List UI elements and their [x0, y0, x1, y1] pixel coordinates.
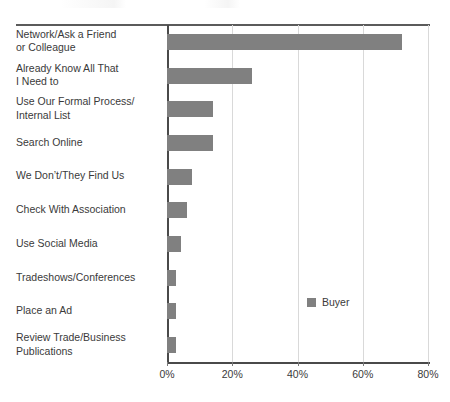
category-label-line: Already Know All That	[16, 62, 162, 76]
gridline-80%	[428, 25, 429, 362]
legend: Buyer	[307, 296, 349, 308]
category-label: Place an Ad	[16, 304, 162, 318]
gridline-60%	[363, 25, 364, 362]
x-tick-mark	[428, 362, 429, 366]
x-tick-mark	[363, 362, 364, 366]
category-label-line: Publications	[16, 345, 162, 359]
category-label-line: Use Our Formal Process/	[16, 95, 162, 109]
legend-swatch-buyer	[307, 298, 316, 307]
category-label-line: Search Online	[16, 136, 162, 150]
bar	[167, 135, 213, 151]
category-label: Already Know All ThatI Need to	[16, 62, 162, 89]
x-axis-line	[167, 362, 430, 364]
category-label: Search Online	[16, 136, 162, 150]
x-tick-label: 0%	[147, 368, 187, 380]
bar	[167, 202, 187, 218]
category-label: We Don’t/They Find Us	[16, 169, 162, 183]
bar	[167, 337, 176, 353]
x-tick-label: 60%	[343, 368, 383, 380]
category-label-line: Tradeshows/Conferences	[16, 271, 162, 285]
bar	[167, 34, 402, 50]
x-tick-label: 80%	[408, 368, 448, 380]
x-tick-mark	[298, 362, 299, 366]
category-label: Network/Ask a Friendor Colleague	[16, 28, 162, 55]
x-tick-mark	[232, 362, 233, 366]
category-label-line: or Colleague	[16, 41, 162, 55]
category-label: Tradeshows/Conferences	[16, 271, 162, 285]
bar	[167, 236, 181, 252]
category-label: Check With Association	[16, 203, 162, 217]
category-label-line: I Need to	[16, 75, 162, 89]
category-label-line: Review Trade/Business	[16, 331, 162, 345]
category-label-line: Check With Association	[16, 203, 162, 217]
bar	[167, 303, 176, 319]
category-label: Use Social Media	[16, 237, 162, 251]
bar	[167, 270, 176, 286]
bar	[167, 169, 192, 185]
bar-chart: Network/Ask a Friendor ColleagueAlready …	[0, 0, 450, 402]
legend-label-buyer: Buyer	[322, 296, 349, 308]
gridline-40%	[298, 25, 299, 362]
x-tick-mark	[167, 362, 168, 366]
category-label-line: Network/Ask a Friend	[16, 28, 162, 42]
x-tick-label: 40%	[278, 368, 318, 380]
category-label-line: Use Social Media	[16, 237, 162, 251]
category-label-line: Place an Ad	[16, 304, 162, 318]
category-label-line: Internal List	[16, 109, 162, 123]
title-remnant	[60, 0, 360, 8]
category-label-line: We Don’t/They Find Us	[16, 169, 162, 183]
bar	[167, 68, 252, 84]
category-label: Review Trade/BusinessPublications	[16, 331, 162, 358]
bar	[167, 101, 213, 117]
category-label: Use Our Formal Process/Internal List	[16, 95, 162, 122]
x-tick-label: 20%	[212, 368, 252, 380]
